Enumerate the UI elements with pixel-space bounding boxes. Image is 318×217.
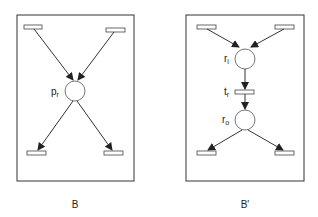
caption-b: B bbox=[72, 199, 79, 210]
caption-b-prime: B' bbox=[241, 199, 250, 210]
arc-out-left bbox=[38, 101, 73, 150]
transition-top-left bbox=[24, 25, 42, 29]
transition-bottom-left bbox=[197, 151, 216, 155]
petri-net-figure: pr B ri tr ro B' bbox=[0, 0, 318, 217]
arc-out-left bbox=[208, 130, 242, 150]
transition-tr bbox=[235, 90, 254, 94]
arc-out-right bbox=[248, 130, 283, 150]
diagram-b: pr B bbox=[17, 15, 134, 210]
arc-in-left bbox=[34, 29, 73, 80]
place-ri bbox=[235, 49, 255, 69]
arc-in-left bbox=[207, 29, 239, 47]
transition-bottom-left bbox=[27, 151, 46, 155]
place-ro bbox=[235, 110, 255, 130]
place-ri-label: ri bbox=[224, 53, 229, 65]
diagram-b-prime: ri tr ro B' bbox=[186, 15, 304, 210]
transition-tr-label: tr bbox=[224, 86, 230, 98]
arc-out-right bbox=[77, 101, 112, 150]
transition-top-right bbox=[106, 28, 125, 32]
transition-bottom-right bbox=[275, 151, 294, 155]
transition-bottom-right bbox=[104, 151, 123, 155]
arc-in-right bbox=[251, 29, 284, 47]
place-pr-label: pr bbox=[51, 86, 60, 98]
transition-top-right bbox=[275, 25, 294, 29]
transition-top-left bbox=[197, 25, 216, 29]
place-ro-label: ro bbox=[222, 114, 229, 126]
place-pr bbox=[65, 81, 85, 101]
arc-in-right bbox=[78, 32, 114, 80]
